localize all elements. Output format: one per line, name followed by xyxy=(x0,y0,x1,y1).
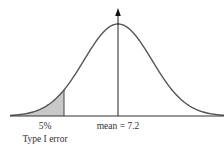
arrow-up-icon xyxy=(115,8,121,16)
mean-label: mean = 7.2 xyxy=(97,122,140,132)
normal-curve xyxy=(10,24,224,115)
percent-label: 5% xyxy=(39,122,52,132)
type-i-error-label: Type I error xyxy=(22,135,67,145)
type-i-error-region xyxy=(10,90,64,116)
